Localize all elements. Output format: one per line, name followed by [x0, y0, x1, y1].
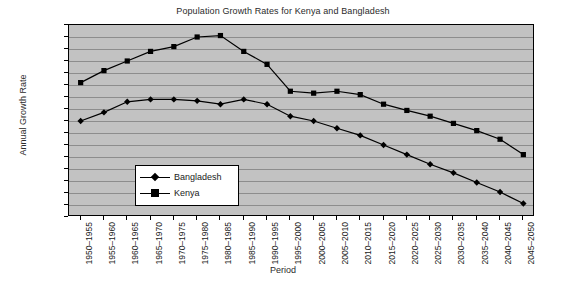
data-point-square-icon	[497, 137, 502, 142]
data-point-square-icon	[334, 89, 339, 94]
data-point-diamond-icon	[217, 101, 223, 107]
x-axis-tick-mark	[150, 216, 151, 220]
data-point-square-icon	[288, 89, 293, 94]
x-axis-tick-mark	[429, 216, 430, 220]
y-axis-title: Annual Growth Rate	[18, 40, 28, 190]
chart-container: Population Growth Rates for Kenya and Ba…	[0, 0, 566, 288]
x-axis-tick-mark	[103, 216, 104, 220]
data-point-diamond-icon	[427, 161, 433, 167]
x-axis-tick-mark	[266, 216, 267, 220]
x-axis-tick-label: 2040–2045	[503, 222, 513, 265]
data-point-diamond-icon	[147, 96, 153, 102]
data-point-square-icon	[358, 92, 363, 97]
data-point-diamond-icon	[380, 142, 386, 148]
x-axis-tick-mark	[80, 216, 81, 220]
data-point-square-icon	[78, 80, 83, 85]
data-point-square-icon	[404, 108, 409, 113]
data-point-square-icon	[101, 68, 106, 73]
plot-area: Bangladesh Kenya	[68, 24, 534, 216]
x-axis-tick-label: 1980–1985	[223, 222, 233, 265]
data-point-diamond-icon	[171, 96, 177, 102]
x-axis-tick-mark	[289, 216, 290, 220]
x-axis-tick-label: 1965–1970	[154, 222, 164, 265]
data-point-square-icon	[171, 44, 176, 49]
x-axis-tick-label: 2000–2005	[317, 222, 327, 265]
legend-marker-square-icon	[140, 188, 170, 198]
x-axis-tick-label: 2045–2050	[526, 222, 536, 265]
x-axis-tick-label: 1970–1975	[177, 222, 187, 265]
legend-label: Kenya	[174, 188, 200, 198]
x-axis-tick-mark	[219, 216, 220, 220]
x-axis-tick-label: 2005–2010	[340, 222, 350, 265]
data-point-square-icon	[311, 91, 316, 96]
x-axis-tick-label: 1995–2000	[293, 222, 303, 265]
x-axis-tick-mark	[452, 216, 453, 220]
x-axis-tick-label: 2030–2035	[456, 222, 466, 265]
data-point-diamond-icon	[474, 179, 480, 185]
data-point-diamond-icon	[124, 99, 130, 105]
data-point-square-icon	[218, 33, 223, 38]
data-point-diamond-icon	[520, 200, 526, 206]
data-point-diamond-icon	[77, 118, 83, 124]
data-point-diamond-icon	[101, 109, 107, 115]
x-axis-tick-label: 2035–2040	[480, 222, 490, 265]
data-point-diamond-icon	[357, 132, 363, 138]
data-point-diamond-icon	[241, 96, 247, 102]
data-point-square-icon	[125, 58, 130, 63]
data-point-diamond-icon	[310, 118, 316, 124]
legend-item-bangladesh: Bangladesh	[140, 169, 234, 185]
legend-label: Bangladesh	[174, 172, 222, 182]
x-axis-tick-label: 2010–2015	[363, 222, 373, 265]
y-axis-tick-mark	[64, 216, 68, 217]
chart-title: Population Growth Rates for Kenya and Ba…	[0, 6, 566, 16]
data-point-square-icon	[521, 152, 526, 157]
x-axis-tick-label: 2025–2030	[433, 222, 443, 265]
x-axis-tick-mark	[383, 216, 384, 220]
x-axis-title: Period	[0, 265, 566, 275]
data-point-square-icon	[241, 49, 246, 54]
data-point-diamond-icon	[287, 113, 293, 119]
x-axis-tick-mark	[499, 216, 500, 220]
x-axis-tick-mark	[476, 216, 477, 220]
x-axis-tick-mark	[406, 216, 407, 220]
x-axis-tick-label: 2020–2025	[410, 222, 420, 265]
x-axis-tick-label: 1950–1955	[84, 222, 94, 265]
data-point-square-icon	[381, 102, 386, 107]
data-point-square-icon	[474, 128, 479, 133]
data-point-diamond-icon	[497, 189, 503, 195]
data-point-diamond-icon	[404, 151, 410, 157]
series-line-kenya	[81, 36, 524, 155]
x-axis-tick-mark	[336, 216, 337, 220]
x-axis-tick-mark	[196, 216, 197, 220]
data-point-diamond-icon	[264, 101, 270, 107]
x-axis-tick-mark	[313, 216, 314, 220]
x-axis-tick-label: 1990–1995	[270, 222, 280, 265]
data-point-diamond-icon	[334, 125, 340, 131]
legend-item-kenya: Kenya	[140, 185, 234, 201]
x-axis-tick-label: 1960–1965	[130, 222, 140, 265]
x-axis-tick-label: 1985–1990	[247, 222, 257, 265]
data-point-diamond-icon	[194, 98, 200, 104]
x-axis-tick-mark	[173, 216, 174, 220]
data-point-square-icon	[195, 34, 200, 39]
x-axis-tick-mark	[359, 216, 360, 220]
data-point-square-icon	[451, 121, 456, 126]
x-axis-tick-label: 1955–1960	[107, 222, 117, 265]
x-axis-tick-label: 1975–1980	[200, 222, 210, 265]
data-point-diamond-icon	[450, 170, 456, 176]
legend-marker-diamond-icon	[140, 172, 170, 182]
x-axis-tick-mark	[522, 216, 523, 220]
x-axis-tick-mark	[126, 216, 127, 220]
data-point-square-icon	[428, 114, 433, 119]
x-axis-tick-mark	[243, 216, 244, 220]
chart-legend: Bangladesh Kenya	[135, 165, 239, 206]
data-point-square-icon	[264, 62, 269, 67]
x-axis-tick-label: 2015–2020	[387, 222, 397, 265]
data-point-square-icon	[148, 49, 153, 54]
